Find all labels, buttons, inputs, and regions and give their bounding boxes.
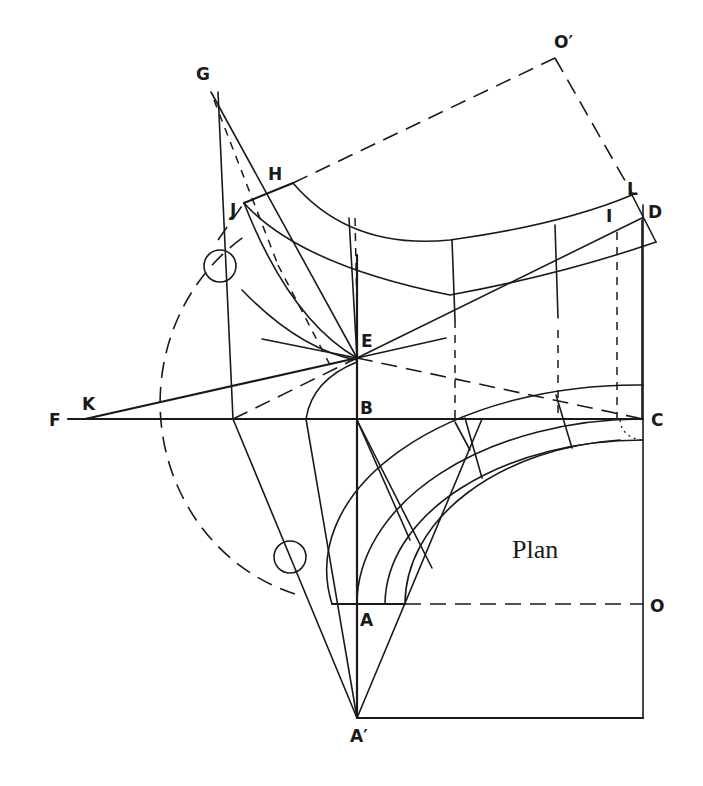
label-O: O [650, 596, 664, 616]
apex-A-prime-rays [218, 92, 482, 718]
curve-J-E [244, 203, 357, 358]
label-G: G [196, 64, 210, 84]
small-circle-upper [204, 250, 236, 282]
wreath-arc-top [293, 183, 632, 241]
line-K-E [85, 358, 357, 419]
plan-arc-outer [327, 385, 643, 604]
line-E-left-dashed [233, 358, 357, 419]
plan-arc-inner [405, 440, 620, 604]
O-prime-frame [218, 58, 632, 240]
ordinate-2 [452, 240, 455, 320]
label-A: A [360, 610, 374, 630]
plan-arc-mid1 [357, 419, 643, 604]
line-E-C-dashed [357, 358, 643, 419]
label-L: L [627, 179, 638, 199]
label-A-prime: A′ [350, 726, 368, 746]
label-H: H [268, 164, 282, 184]
line-A-prime-mid [306, 419, 357, 718]
label-E: E [361, 331, 373, 351]
plan-arc-mid2 [385, 440, 643, 604]
line-A-prime-left [233, 419, 357, 718]
label-J: J [229, 200, 236, 220]
geometric-construction-diagram: G H J O′ L D I E K F B C A O A′ Plan [0, 0, 703, 786]
joint-line-3 [357, 420, 432, 568]
label-O-prime: O′ [554, 32, 573, 52]
label-D: D [648, 202, 662, 222]
label-B: B [360, 398, 373, 418]
line-H-O-prime [293, 58, 555, 183]
edge-J-H [244, 183, 293, 203]
wreath-arc-bottom [244, 203, 656, 295]
label-C: C [651, 410, 663, 430]
plan-title: Plan [512, 535, 558, 564]
label-F: F [49, 410, 61, 430]
line-E-D [357, 218, 642, 358]
label-I: I [606, 206, 612, 226]
line-O-prime-L [555, 58, 632, 193]
ordinate-1-dashed [355, 218, 357, 310]
line-G-E [211, 92, 357, 358]
triangle-G [211, 92, 410, 540]
dotted-arc-C [620, 420, 643, 440]
label-K: K [82, 394, 96, 414]
